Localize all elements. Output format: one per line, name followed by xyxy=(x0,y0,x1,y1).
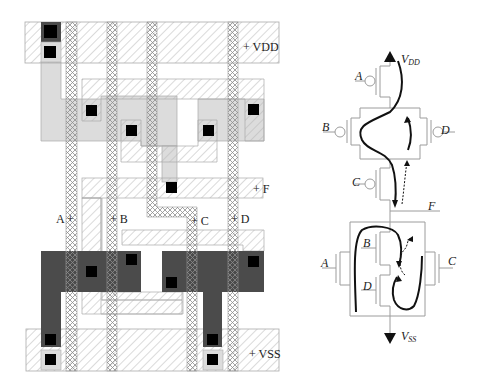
vss-node-label: VSS xyxy=(401,329,416,344)
poly-b xyxy=(107,22,117,371)
pmos-a-label: A xyxy=(354,69,363,83)
current-paths xyxy=(355,61,422,312)
vdd-label: + VDD xyxy=(243,40,279,54)
schematic-labels: VDD A B D C F B A C D VSS xyxy=(320,52,457,344)
pmos-c-label: C xyxy=(352,175,361,189)
vss-label: + VSS xyxy=(249,347,281,361)
schematic-view xyxy=(322,51,455,344)
input-a-label: A + xyxy=(56,212,74,226)
poly-d xyxy=(228,22,238,371)
input-b-label: + B xyxy=(110,212,128,226)
pmos-b-label: B xyxy=(322,120,330,134)
vss-arrow-icon xyxy=(384,333,396,344)
layout-view: + VDD + F + VSS A + + B + C + D xyxy=(25,22,281,371)
nmos-a-label: A xyxy=(320,256,329,270)
poly-a xyxy=(66,22,77,371)
pmos-d-label: D xyxy=(440,123,450,137)
input-c-label: + C xyxy=(191,214,209,228)
cmos-layout-figure: + VDD + F + VSS A + + B + C + D xyxy=(0,0,481,381)
nmos-c-label: C xyxy=(448,254,457,268)
vss-rail xyxy=(26,329,279,371)
output-f-label: F xyxy=(427,199,436,213)
input-d-label: + D xyxy=(231,212,250,226)
vdd-node-label: VDD xyxy=(401,52,420,67)
nmos-d-label: D xyxy=(362,279,372,293)
f-label: + F xyxy=(253,182,270,196)
nmos-b-label: B xyxy=(363,236,371,250)
vdd-arrow-icon xyxy=(384,51,396,62)
